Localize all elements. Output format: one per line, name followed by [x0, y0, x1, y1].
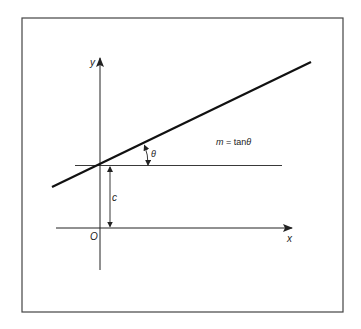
origin-label: O: [90, 231, 98, 242]
y-axis-label: y: [89, 57, 96, 68]
x-axis-label: x: [286, 233, 293, 244]
straight-line-diagram: y x O c θ m = tanθ: [0, 0, 361, 329]
slope-equation: m = tanθ: [216, 137, 251, 147]
figure-frame: [22, 18, 343, 312]
angle-arc: [145, 146, 149, 166]
intercept-label: c: [112, 192, 117, 203]
slope-theta-symbol: θ: [246, 137, 251, 147]
slope-eq-text: = tan: [224, 137, 247, 147]
straight-line: [52, 62, 311, 187]
angle-label: θ: [151, 149, 156, 159]
